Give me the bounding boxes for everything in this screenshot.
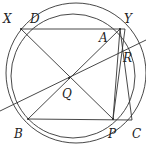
label-R: R xyxy=(122,51,132,65)
label-A: A xyxy=(98,31,108,45)
label-B: B xyxy=(13,127,23,141)
segment-CY xyxy=(120,29,132,120)
label-C: C xyxy=(132,127,141,141)
geometry-diagram: X D Y A R Q B P C xyxy=(0,0,146,145)
label-P: P xyxy=(107,127,117,141)
segment-BC xyxy=(28,119,132,120)
label-X: X xyxy=(2,12,12,26)
point-P xyxy=(112,118,114,120)
point-B xyxy=(27,118,29,120)
label-Y: Y xyxy=(124,12,133,26)
point-Y xyxy=(119,28,121,30)
label-D: D xyxy=(29,12,40,26)
point-Q xyxy=(68,77,70,79)
point-X xyxy=(20,28,22,30)
label-Q: Q xyxy=(62,87,72,101)
